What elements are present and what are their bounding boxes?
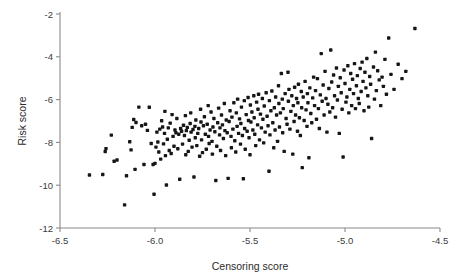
data-point xyxy=(256,108,259,111)
data-point xyxy=(277,84,280,87)
data-point xyxy=(166,137,169,140)
data-point xyxy=(218,133,221,136)
data-point xyxy=(287,100,290,103)
data-point xyxy=(296,130,299,133)
data-point xyxy=(237,132,240,135)
x-tick-label: -6.0 xyxy=(147,235,163,246)
data-point xyxy=(306,101,309,104)
data-point xyxy=(342,68,345,71)
data-point xyxy=(336,98,339,101)
data-point xyxy=(168,149,171,152)
data-point xyxy=(239,122,242,125)
data-point xyxy=(275,113,278,116)
data-point xyxy=(196,132,199,135)
data-point xyxy=(287,88,290,91)
data-point xyxy=(300,90,303,93)
data-point xyxy=(181,142,184,145)
y-tick-label: -8 xyxy=(45,137,53,148)
data-point xyxy=(222,137,225,140)
data-point xyxy=(261,97,264,100)
y-axis-label: Risk score xyxy=(16,96,28,145)
data-point xyxy=(207,135,210,138)
data-point xyxy=(216,121,219,124)
data-point xyxy=(341,155,344,158)
y-tick-label: -2 xyxy=(45,9,53,20)
data-point xyxy=(302,119,305,122)
data-point xyxy=(285,123,288,126)
data-point xyxy=(289,110,292,113)
data-point xyxy=(240,105,243,108)
data-point xyxy=(177,133,180,136)
data-point xyxy=(150,142,153,145)
data-point xyxy=(264,130,267,133)
data-point xyxy=(194,136,197,139)
data-point xyxy=(299,134,302,137)
data-point xyxy=(142,163,145,166)
data-point xyxy=(214,179,217,182)
data-point xyxy=(133,168,136,171)
data-point xyxy=(246,96,249,99)
data-point xyxy=(327,87,330,90)
data-point xyxy=(308,86,311,89)
data-point xyxy=(277,102,280,105)
data-point xyxy=(404,70,407,73)
data-point xyxy=(413,27,416,30)
data-point xyxy=(252,94,255,97)
data-point xyxy=(249,120,252,123)
data-point xyxy=(247,136,250,139)
data-point xyxy=(313,104,316,107)
data-point xyxy=(301,166,304,169)
data-point xyxy=(376,69,379,72)
data-point xyxy=(219,149,222,152)
data-point xyxy=(353,62,356,65)
data-point xyxy=(302,95,305,98)
data-point xyxy=(157,150,160,153)
data-point xyxy=(382,85,385,88)
data-point xyxy=(178,178,181,181)
data-point xyxy=(253,133,256,136)
data-point xyxy=(337,85,340,88)
data-point xyxy=(241,134,244,137)
data-point xyxy=(318,127,321,130)
data-point xyxy=(364,86,367,89)
data-point xyxy=(229,135,232,138)
data-point xyxy=(295,97,298,100)
data-point xyxy=(155,130,158,133)
data-point xyxy=(232,101,235,104)
data-point xyxy=(110,133,113,136)
data-point xyxy=(284,117,287,120)
data-point xyxy=(152,192,155,195)
data-point xyxy=(207,104,210,107)
data-point xyxy=(400,77,403,80)
data-point xyxy=(202,124,205,127)
data-point xyxy=(189,111,192,114)
y-tick-label: -4 xyxy=(45,51,53,62)
data-point xyxy=(188,139,191,142)
data-point xyxy=(244,148,247,151)
data-point xyxy=(352,92,355,95)
data-point xyxy=(169,152,172,155)
data-point xyxy=(346,64,349,67)
data-point xyxy=(223,102,226,105)
data-point xyxy=(328,110,331,113)
data-point xyxy=(153,162,156,165)
data-point xyxy=(317,107,320,110)
data-point xyxy=(312,75,315,78)
data-point xyxy=(217,106,220,109)
data-point xyxy=(375,89,378,92)
data-point xyxy=(392,88,395,91)
data-point xyxy=(224,154,227,157)
data-point xyxy=(363,71,366,74)
data-point xyxy=(190,145,193,148)
data-point xyxy=(358,102,361,105)
data-point xyxy=(276,140,279,143)
data-point xyxy=(205,148,208,151)
data-point xyxy=(300,106,303,109)
data-point xyxy=(226,177,229,180)
data-point xyxy=(362,109,365,112)
data-point xyxy=(310,121,313,124)
data-point xyxy=(182,124,185,127)
data-point xyxy=(269,109,272,112)
data-point xyxy=(227,120,230,123)
data-point xyxy=(248,153,251,156)
